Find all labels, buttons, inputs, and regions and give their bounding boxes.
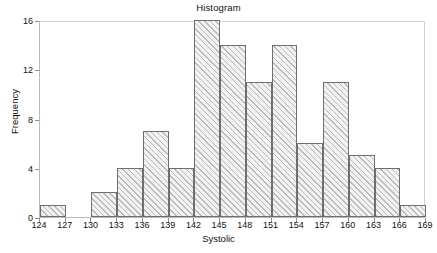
x-tick-label: 133 [109, 221, 124, 230]
histogram-bar [169, 168, 195, 217]
x-tick-label: 151 [263, 221, 278, 230]
histogram-bar [143, 131, 169, 217]
x-tick-mark [245, 218, 246, 222]
chart-title: Histogram [0, 2, 437, 13]
x-tick-mark [374, 218, 375, 222]
histogram-bar [349, 155, 375, 217]
x-tick-label: 139 [160, 221, 175, 230]
histogram-bar [323, 82, 349, 217]
x-tick-label: 130 [83, 221, 98, 230]
histogram-figure: Histogram 0481216 1241271301331361391421… [0, 0, 437, 253]
x-tick-mark [142, 218, 143, 222]
y-tick-label: 4 [28, 164, 33, 173]
y-tick-label: 8 [28, 115, 33, 124]
x-tick-mark [193, 218, 194, 222]
x-tick-mark [271, 218, 272, 222]
x-tick-mark [65, 218, 66, 222]
y-tick-mark [35, 120, 39, 121]
y-axis-line [39, 21, 40, 218]
histogram-bar [194, 20, 220, 217]
x-tick-mark [348, 218, 349, 222]
y-tick-mark [35, 21, 39, 22]
histogram-bar [246, 82, 272, 217]
x-tick-label: 127 [57, 221, 72, 230]
y-tick-label: 12 [23, 66, 33, 75]
histogram-bar [40, 205, 66, 217]
x-tick-mark [116, 218, 117, 222]
histogram-bar [272, 45, 298, 217]
x-tick-label: 163 [366, 221, 381, 230]
histogram-bar [117, 168, 143, 217]
x-tick-label: 169 [417, 221, 432, 230]
histogram-bar [297, 143, 323, 217]
histogram-bar [375, 168, 401, 217]
x-tick-label: 166 [392, 221, 407, 230]
x-tick-label: 154 [289, 221, 304, 230]
x-tick-label: 157 [315, 221, 330, 230]
x-tick-mark [425, 218, 426, 222]
x-tick-mark [39, 218, 40, 222]
histogram-bar [220, 45, 246, 217]
x-tick-mark [90, 218, 91, 222]
plot-area [39, 21, 425, 218]
x-tick-mark [322, 218, 323, 222]
y-tick-mark [35, 70, 39, 71]
x-tick-mark [399, 218, 400, 222]
x-tick-label: 145 [212, 221, 227, 230]
y-tick-mark [35, 169, 39, 170]
x-tick-mark [168, 218, 169, 222]
histogram-bar [400, 205, 426, 217]
bars-container [40, 22, 424, 217]
x-tick-mark [296, 218, 297, 222]
x-axis-title: Systolic [0, 233, 437, 244]
x-tick-label: 124 [31, 221, 46, 230]
y-tick-label: 16 [23, 17, 33, 26]
y-axis-title: Frequency [9, 72, 20, 152]
x-tick-mark [219, 218, 220, 222]
x-tick-label: 148 [237, 221, 252, 230]
x-axis-line [39, 217, 425, 218]
x-tick-label: 142 [186, 221, 201, 230]
histogram-bar [91, 192, 117, 217]
x-tick-label: 136 [134, 221, 149, 230]
x-tick-label: 160 [340, 221, 355, 230]
